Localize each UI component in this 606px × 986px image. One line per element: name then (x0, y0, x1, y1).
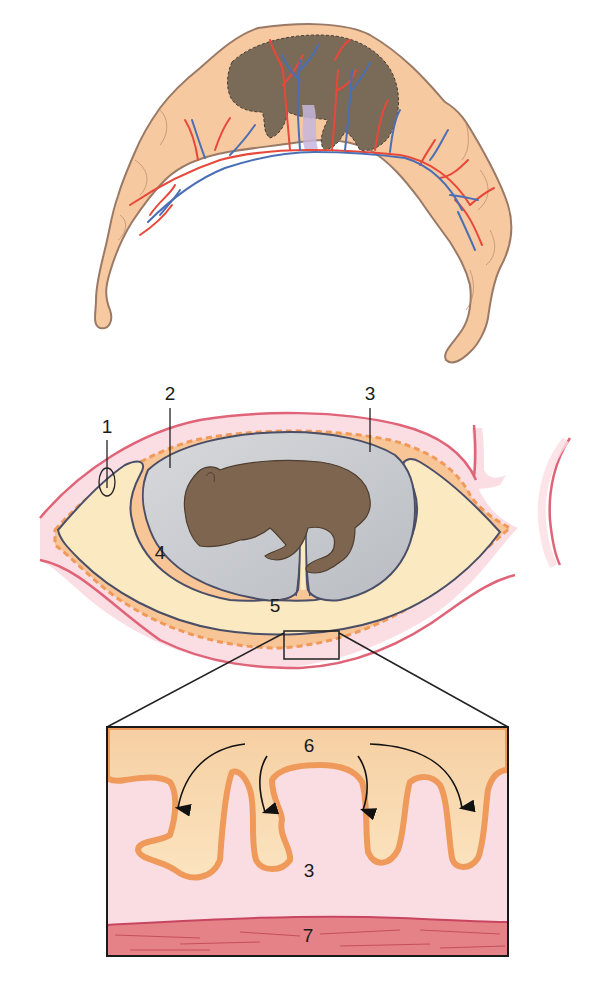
label-6-chorion: 6 (304, 735, 315, 756)
villi-inset-panel: 6 3 7 (107, 727, 508, 956)
chorion-arc-panel (95, 24, 511, 362)
label-3-endometrium: 3 (365, 383, 376, 404)
label-4-amniotic-cavity: 4 (155, 542, 166, 563)
placenta-diagram: 1 2 3 4 5 6 (0, 0, 606, 986)
cross-section-panel: 1 2 3 4 5 (40, 383, 570, 668)
label-1-chorion-allantois-junction: 1 (102, 416, 113, 437)
label-3-endometrium-inset: 3 (304, 860, 315, 881)
label-2-chorion: 2 (165, 383, 176, 404)
label-7-myometrium: 7 (303, 925, 314, 946)
label-5-allantoic-cavity: 5 (270, 595, 281, 616)
